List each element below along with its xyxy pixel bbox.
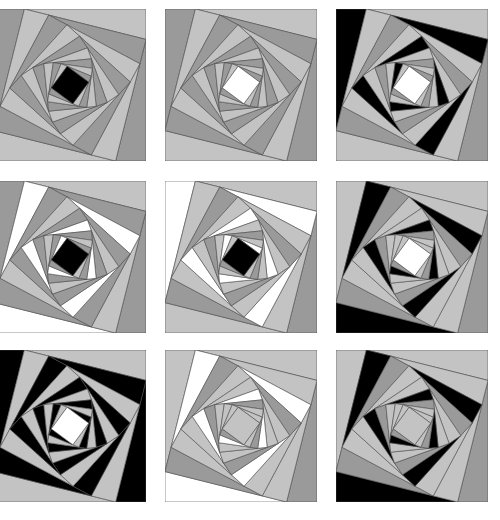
puzzle-tile-r1c3[interactable] xyxy=(336,9,488,161)
whirl-pattern-icon xyxy=(336,9,488,161)
whirl-pattern-icon xyxy=(336,350,488,502)
puzzle-tile-r1c1[interactable] xyxy=(0,9,146,161)
whirl-pattern-icon xyxy=(0,9,146,161)
whirl-pattern-icon xyxy=(336,181,488,333)
puzzle-tile-r3c2[interactable] xyxy=(165,350,317,502)
whirl-pattern-icon xyxy=(0,181,146,333)
puzzle-tile-r3c1[interactable] xyxy=(0,350,146,502)
puzzle-tile-r1c2[interactable] xyxy=(165,9,317,161)
whirl-pattern-icon xyxy=(165,181,317,333)
puzzle-tile-r2c3[interactable] xyxy=(336,181,488,333)
puzzle-tile-r2c1[interactable] xyxy=(0,181,146,333)
puzzle-board xyxy=(0,0,500,520)
puzzle-tile-r2c2[interactable] xyxy=(165,181,317,333)
puzzle-tile-r3c3[interactable] xyxy=(336,350,488,502)
whirl-pattern-icon xyxy=(0,350,146,502)
whirl-pattern-icon xyxy=(165,9,317,161)
whirl-pattern-icon xyxy=(165,350,317,502)
